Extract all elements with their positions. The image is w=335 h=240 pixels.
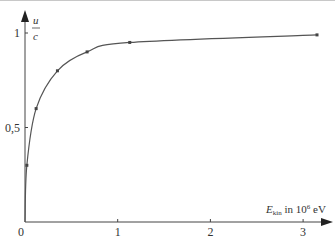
data-point-marker (35, 107, 38, 110)
x-tick-label: 1 (115, 225, 121, 239)
y-axis-arrow-icon (21, 10, 29, 22)
data-point-marker (128, 41, 131, 44)
x-label-unit: eV (310, 203, 326, 215)
data-point-marker (86, 50, 89, 53)
data-markers (25, 33, 318, 166)
chart: 0123 0,51 u c Ekin in 106 eV (0, 0, 335, 240)
y-label-denominator: c (33, 30, 38, 42)
y-label-numerator: u (33, 14, 39, 26)
x-tick-label: 0 (18, 225, 24, 239)
data-curve (25, 35, 317, 222)
x-axis-arrow-icon (321, 218, 333, 226)
data-point-marker (25, 164, 28, 167)
y-tick-label: 1 (14, 26, 20, 40)
x-label: Ekin in 106 eV (265, 203, 326, 217)
data-point-marker (56, 69, 59, 72)
x-tick-label: 3 (300, 225, 306, 239)
x-tick-label: 2 (207, 225, 213, 239)
x-label-rest: in 10 (282, 203, 308, 215)
data-point-marker (316, 33, 319, 36)
y-tick-label: 0,5 (5, 121, 20, 135)
